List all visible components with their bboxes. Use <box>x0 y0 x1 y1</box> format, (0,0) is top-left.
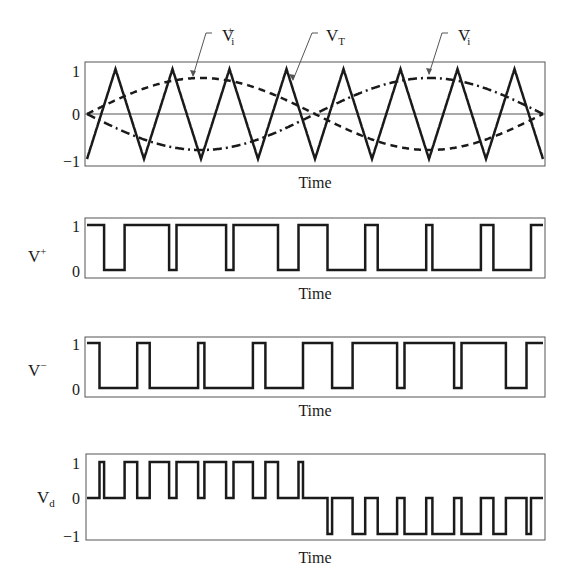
arrow-vim <box>429 33 448 74</box>
arrowhead-icon <box>426 68 432 75</box>
p2-tick-0: 0 <box>58 264 80 280</box>
p2-tick-1: 1 <box>58 219 80 235</box>
p3-tick-1: 1 <box>58 337 80 353</box>
p1-tick-minus1: −1 <box>58 154 80 170</box>
p3-xlabel: Time <box>275 403 355 419</box>
panel2-vplus-curve <box>87 225 543 270</box>
p3-ylabel: V− <box>28 360 47 379</box>
p4-xlabel: Time <box>275 550 355 566</box>
arrow-vip <box>193 33 212 76</box>
arrowhead-icon <box>190 70 196 77</box>
p4-tick-minus1: −1 <box>58 529 80 545</box>
label-vi-plus: Vi+ <box>222 25 244 47</box>
p2-ylabel: V+ <box>28 246 47 265</box>
p3-tick-0: 0 <box>58 382 80 398</box>
p2-xlabel: Time <box>275 286 355 302</box>
p1-tick-1: 1 <box>58 64 80 80</box>
label-vt: VT <box>326 27 345 47</box>
arrow-vt <box>293 33 318 80</box>
label-vi-minus: Vi− <box>458 25 480 47</box>
p1-xlabel: Time <box>275 175 355 191</box>
p4-tick-1: 1 <box>58 456 80 472</box>
p4-ylabel: Vd <box>37 489 55 509</box>
p1-tick-0: 0 <box>58 107 80 123</box>
panel3-vminus-curve <box>87 343 543 388</box>
panel4-vd-curve <box>87 462 543 534</box>
p4-tick-0: 0 <box>58 491 80 507</box>
